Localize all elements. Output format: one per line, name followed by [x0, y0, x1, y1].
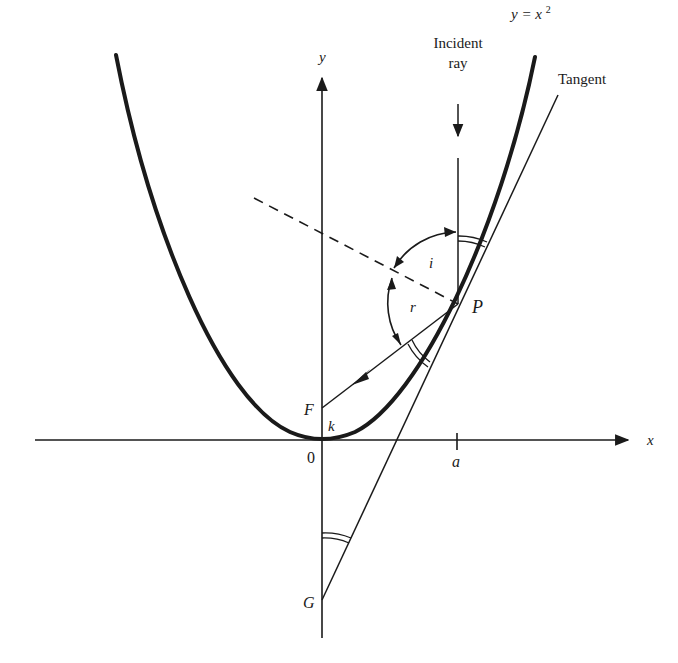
tangent-label: Tangent	[558, 71, 607, 87]
point-p-label: P	[471, 297, 483, 317]
parabola-curve	[116, 55, 535, 439]
incident-label-line1: Incident	[433, 35, 483, 51]
angle-i-arc	[394, 232, 456, 268]
parabola-reflection-diagram: Incident ray y = x 2 Tangent y x 0 a P F…	[0, 0, 678, 663]
angle-r-arrow-bottom	[392, 333, 401, 345]
point-g-label: G	[303, 594, 315, 611]
incident-label-line2: ray	[448, 55, 468, 71]
angle-i-label: i	[429, 255, 433, 271]
focus-f-label: F	[303, 401, 314, 418]
x-axis-label: x	[646, 432, 654, 448]
angle-r-arrow-top	[387, 278, 396, 290]
origin-label: 0	[307, 449, 315, 466]
k-label: k	[328, 418, 335, 434]
curve-label: y = x 2	[509, 4, 551, 22]
tangent-line	[322, 95, 558, 600]
angle-marker-g	[322, 533, 351, 543]
angle-r-label: r	[410, 299, 416, 315]
curve-label-exponent: 2	[546, 4, 551, 15]
reflected-arrow	[352, 372, 369, 385]
normal-line	[254, 198, 458, 304]
y-axis-label: y	[317, 49, 326, 65]
angle-i-arrow-top	[444, 227, 456, 237]
angle-i-arrow-bottom	[394, 256, 404, 268]
curve-label-base: y = x	[509, 6, 542, 22]
a-label: a	[452, 453, 460, 470]
